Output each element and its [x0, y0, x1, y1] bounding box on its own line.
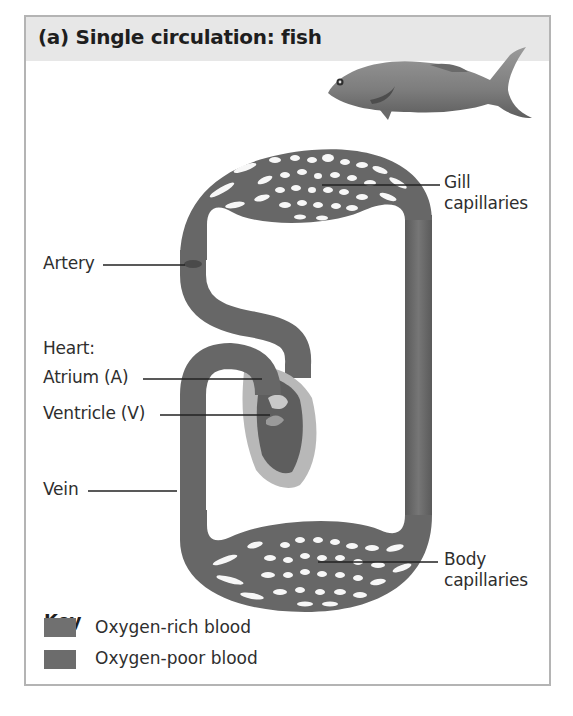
artery-label: Artery: [43, 253, 95, 274]
atrium-label: Atrium (A): [43, 367, 128, 388]
oxygen-poor-swatch: [44, 650, 76, 669]
fish-icon: [328, 47, 532, 120]
body-capillary-bed: [180, 510, 432, 612]
gill-label-line1: Gill: [444, 172, 471, 193]
oxygen-poor-label: Oxygen-poor blood: [95, 648, 258, 668]
gill-label-line2: capillaries: [444, 193, 528, 214]
ventricle-label: Ventricle (V): [43, 403, 145, 424]
vein-label: Vein: [43, 479, 78, 500]
right-vessel: [405, 215, 432, 515]
body-label-line2: capillaries: [444, 570, 528, 591]
heart-label: Heart:: [43, 338, 95, 359]
oxygen-rich-label: Oxygen-rich blood: [95, 617, 251, 637]
gill-capillary-bed: [180, 149, 432, 260]
oxygen-rich-swatch: [44, 618, 76, 637]
body-label-line1: Body: [444, 549, 486, 570]
